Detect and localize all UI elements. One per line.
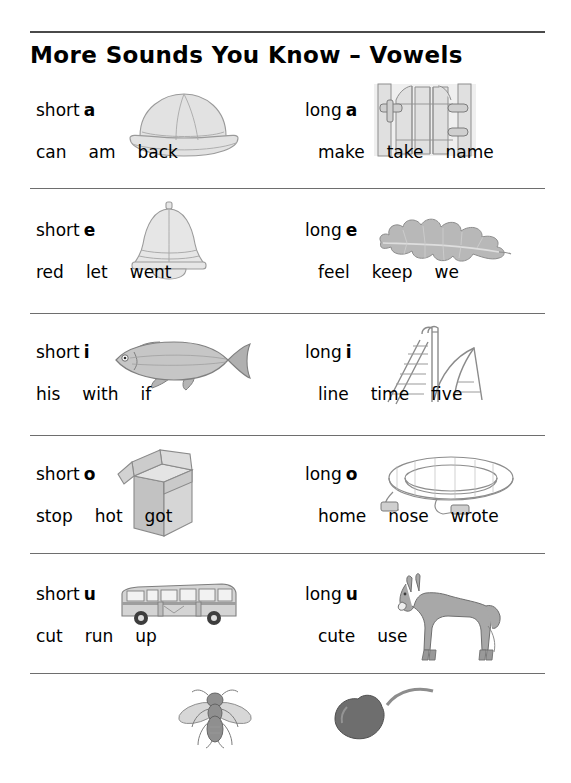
cherry-icon <box>325 687 445 749</box>
label-long-u: longu <box>305 586 358 603</box>
word: five <box>431 386 462 403</box>
word: let <box>86 264 108 281</box>
word: if <box>140 386 151 403</box>
word-list-long-i: linetimefive <box>318 386 462 403</box>
length-label: long <box>305 464 342 484</box>
word: hot <box>95 508 123 525</box>
fly-insect-icon <box>170 687 260 749</box>
vowel-letter: o <box>80 464 96 484</box>
page-title: More Sounds You Know – Vowels <box>30 42 463 68</box>
word: run <box>85 628 114 645</box>
vowel-letter: i <box>342 342 352 362</box>
label-short-i: shorti <box>36 344 90 361</box>
label-short-o: shorto <box>36 466 95 483</box>
word: can <box>36 144 67 161</box>
mule-icon <box>392 572 504 664</box>
word: home <box>318 508 366 525</box>
label-long-a: longa <box>305 102 357 119</box>
y-sound-row: y <box>0 673 571 783</box>
label-long-i: longi <box>305 344 352 361</box>
word: use <box>377 628 407 645</box>
length-label: long <box>305 100 342 120</box>
cell-short-e: shorte redl <box>8 208 289 313</box>
word: stop <box>36 508 73 525</box>
cell-long-e: longe feelkeepwe <box>290 208 571 313</box>
vowel-letter: a <box>342 100 357 120</box>
word: cute <box>318 628 355 645</box>
label-long-e: longe <box>305 222 357 239</box>
word-list-long-e: feelkeepwe <box>318 264 459 281</box>
word-list-long-o: homenosewrote <box>318 508 499 525</box>
label-short-u: shortu <box>36 586 96 603</box>
length-label: short <box>36 100 80 120</box>
length-label: long <box>305 342 342 362</box>
word-list-long-a: maketakename <box>318 144 494 161</box>
word-list-short-a: canamback <box>36 144 178 161</box>
word: up <box>135 628 157 645</box>
length-label: long <box>305 584 342 604</box>
label-short-a: shorta <box>36 102 95 119</box>
word: got <box>145 508 173 525</box>
word: line <box>318 386 349 403</box>
vowel-letter: i <box>80 342 90 362</box>
row-divider-4 <box>30 553 545 554</box>
word-list-short-u: cutrunup <box>36 628 157 645</box>
word-list-short-i: hiswithif <box>36 386 151 403</box>
row-divider-1 <box>30 188 545 189</box>
row-divider-2 <box>30 313 545 314</box>
header-rule <box>30 31 545 33</box>
cell-short-a: shorta canamback <box>8 88 289 188</box>
vowel-row-o: shorto stophotgot <box>0 452 571 553</box>
word: make <box>318 144 365 161</box>
vowel-row-u: shortu <box>0 572 571 673</box>
cell-long-u: longu <box>290 572 571 673</box>
worksheet-page: More Sounds You Know – Vowels shorta <box>0 0 571 783</box>
vowel-row-e: shorte redl <box>0 208 571 313</box>
word: red <box>36 264 64 281</box>
word: went <box>130 264 172 281</box>
word: with <box>82 386 118 403</box>
word: back <box>138 144 178 161</box>
word: nose <box>388 508 429 525</box>
cell-long-a: longa <box>290 88 571 188</box>
vowel-letter: e <box>342 220 358 240</box>
vowel-letter: o <box>342 464 358 484</box>
length-label: short <box>36 342 80 362</box>
word: am <box>89 144 116 161</box>
length-label: short <box>36 220 80 240</box>
cell-short-u: shortu <box>8 572 289 673</box>
row-divider-3 <box>30 435 545 436</box>
word: take <box>387 144 424 161</box>
word: name <box>445 144 493 161</box>
vowel-letter: a <box>80 100 95 120</box>
word: feel <box>318 264 350 281</box>
word: time <box>371 386 409 403</box>
vowel-letter: u <box>80 584 96 604</box>
cell-short-o: shorto stophotgot <box>8 452 289 553</box>
word: we <box>435 264 459 281</box>
label-long-o: longo <box>305 466 357 483</box>
word: wrote <box>451 508 499 525</box>
vowel-letter: e <box>80 220 96 240</box>
word: his <box>36 386 60 403</box>
length-label: short <box>36 584 80 604</box>
word: keep <box>372 264 413 281</box>
vowel-row-i: shorti <box>0 330 571 435</box>
label-short-e: shorte <box>36 222 95 239</box>
cell-long-o: longo <box>290 452 571 553</box>
word-list-long-u: cuteuse <box>318 628 407 645</box>
vowel-row-a: shorta canamback <box>0 88 571 188</box>
word-list-short-o: stophotgot <box>36 508 172 525</box>
fish-icon <box>108 334 256 394</box>
word-list-short-e: redletwent <box>36 264 172 281</box>
oak-leaf-icon <box>373 210 513 270</box>
length-label: short <box>36 464 80 484</box>
word: cut <box>36 628 63 645</box>
vowel-letter: u <box>342 584 358 604</box>
bus-icon <box>118 580 240 630</box>
length-label: long <box>305 220 342 240</box>
cell-long-i: longi <box>290 330 571 435</box>
cell-short-i: shorti <box>8 330 289 435</box>
